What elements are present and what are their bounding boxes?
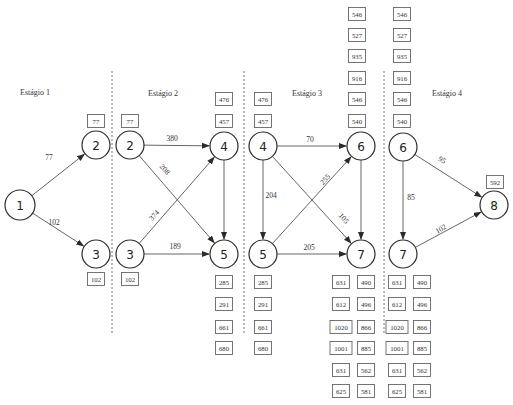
edge-arrow (139, 157, 214, 243)
value-box-label: 457 (219, 118, 230, 125)
value-box-label: 612 (336, 301, 347, 308)
node-label: 5 (259, 248, 267, 262)
value-box: 1001 (330, 342, 352, 355)
node-label: 6 (357, 140, 365, 154)
value-box-label: 631 (392, 279, 402, 286)
value-box: 476 (255, 93, 272, 106)
value-box-label: 1001 (390, 345, 404, 352)
value-box-label: 661 (219, 324, 229, 331)
value-box: 916 (394, 72, 411, 85)
value-box: 680 (255, 342, 272, 355)
value-box: 631 (389, 276, 406, 289)
value-box: 680 (216, 342, 233, 355)
value-box-label: 285 (219, 279, 230, 286)
edge-arrow (272, 156, 351, 243)
value-box-label: 625 (336, 388, 347, 395)
value-box: 527 (394, 29, 411, 42)
edge-arrow (415, 212, 480, 247)
value-box: 625 (333, 385, 350, 398)
node-label: 7 (357, 248, 365, 262)
node-label: 8 (490, 199, 498, 213)
node-label: 4 (259, 140, 267, 154)
value-box: 291 (255, 298, 272, 311)
value-box-label: 490 (417, 279, 428, 286)
value-box-label: 102 (125, 276, 136, 283)
value-box-label: 935 (352, 53, 363, 60)
edge-weight-label: 70 (306, 135, 314, 144)
value-box: 77 (122, 115, 139, 128)
node-3: 3 (116, 240, 144, 268)
value-box-label: 866 (417, 324, 428, 331)
nodes: 12323454567678 (5, 131, 508, 268)
node-4: 4 (210, 132, 238, 160)
value-box-label: 540 (352, 118, 363, 125)
value-box-label: 661 (258, 324, 268, 331)
node-label: 4 (220, 140, 228, 154)
value-box: 581 (414, 385, 431, 398)
edge-arrow (415, 155, 482, 197)
edge-arrow (32, 154, 84, 195)
value-box: 496 (414, 298, 431, 311)
node-1: 1 (5, 190, 35, 220)
node-label: 6 (399, 141, 407, 155)
value-box: 866 (414, 321, 431, 334)
value-box-label: 866 (361, 324, 372, 331)
value-box-label: 496 (361, 301, 372, 308)
node-6: 6 (389, 133, 417, 161)
value-box: 540 (394, 115, 411, 128)
node-label: 7 (399, 248, 407, 262)
value-box-label: 540 (397, 118, 408, 125)
node-7: 7 (347, 240, 375, 268)
value-box: 291 (216, 298, 233, 311)
edge-weight-label: 205 (303, 243, 315, 252)
value-box-label: 562 (417, 367, 428, 374)
value-box: 527 (349, 29, 366, 42)
value-box-label: 935 (397, 53, 408, 60)
value-box-label: 496 (417, 301, 428, 308)
value-box: 935 (349, 50, 366, 63)
node-2: 2 (82, 131, 110, 159)
value-box: 866 (358, 321, 375, 334)
value-box-label: 527 (352, 32, 363, 39)
node-label: 5 (220, 248, 228, 262)
edge-weight-label: 204 (265, 191, 277, 200)
node-7: 7 (389, 240, 417, 268)
value-box: 476 (216, 93, 233, 106)
value-box: 625 (389, 385, 406, 398)
value-box-label: 457 (258, 118, 269, 125)
value-box-label: 476 (219, 96, 230, 103)
value-box: 490 (414, 276, 431, 289)
value-box-label: 916 (352, 75, 363, 82)
node-label: 2 (126, 139, 134, 153)
value-box-label: 285 (258, 279, 269, 286)
value-box: 661 (216, 321, 233, 334)
value-box-label: 476 (258, 96, 269, 103)
node-label: 3 (92, 248, 100, 262)
node-5: 5 (249, 240, 277, 268)
node-5: 5 (210, 240, 238, 268)
value-box: 612 (389, 298, 406, 311)
value-box-label: 291 (219, 301, 229, 308)
value-box: 916 (349, 72, 366, 85)
stage-label: Estágio 3 (292, 89, 322, 98)
value-boxes: 7710277102476457285291661680476457285291… (88, 8, 504, 398)
value-box-label: 102 (91, 276, 102, 283)
value-box: 546 (349, 8, 366, 21)
value-box-label: 490 (361, 279, 372, 286)
stage-label: Estágio 4 (432, 89, 462, 98)
value-box: 496 (358, 298, 375, 311)
node-8: 8 (480, 191, 508, 219)
value-box-label: 631 (336, 367, 346, 374)
edge-weight-label: 189 (169, 242, 181, 251)
edge-arrow (272, 157, 351, 244)
node-2: 2 (116, 131, 144, 159)
node-6: 6 (347, 132, 375, 160)
value-box: 935 (394, 50, 411, 63)
value-box: 546 (394, 8, 411, 21)
value-box: 77 (88, 115, 105, 128)
edge-weight-label: 255 (318, 172, 332, 187)
value-box: 592 (487, 176, 504, 189)
value-box: 885 (414, 342, 431, 355)
value-box-label: 612 (392, 301, 403, 308)
value-box: 285 (255, 276, 272, 289)
